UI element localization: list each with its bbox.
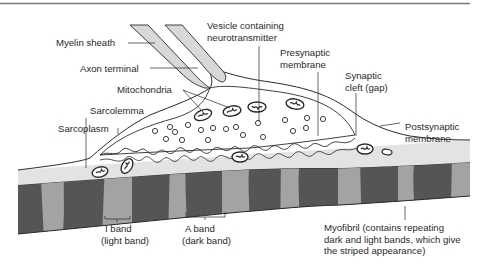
label-myelin-sheath: Myelin sheath	[56, 37, 115, 49]
label-synaptic-cleft: Synaptic cleft (gap)	[345, 70, 388, 93]
label-a-band-line2: (dark band)	[182, 235, 231, 247]
label-a-band: A band (dark band)	[182, 223, 231, 246]
label-vesicle-line1: Vesicle containing	[207, 20, 284, 32]
label-i-band-line2: (light band)	[101, 235, 149, 247]
label-myofibril: Myofibril (contains repeating dark and l…	[324, 222, 461, 257]
label-cleft-line2: cleft (gap)	[345, 82, 388, 94]
label-vesicle-line2: neurotransmitter	[207, 32, 284, 44]
label-i-band-line1: I band	[101, 223, 149, 235]
label-myofibril-line3: the striped appearance)	[324, 245, 461, 257]
label-postsynaptic-line1: Postsynaptic	[405, 121, 459, 133]
label-sarcolemma: Sarcolemma	[90, 105, 144, 117]
label-myofibril-line1: Myofibril (contains repeating	[324, 222, 461, 234]
label-mitochondria: Mitochondria	[117, 84, 172, 96]
label-postsynaptic-line2: membrane	[405, 133, 459, 145]
neuromuscular-junction-diagram: Myelin sheath Axon terminal Mitochondria…	[0, 0, 484, 270]
label-sarcoplasm: Sarcoplasm	[58, 123, 109, 135]
label-vesicle: Vesicle containing neurotransmitter	[207, 20, 284, 43]
label-a-band-line1: A band	[182, 223, 231, 235]
label-i-band: I band (light band)	[101, 223, 149, 246]
label-presynaptic-membrane: Presynaptic membrane	[280, 47, 330, 70]
label-postsynaptic-membrane: Postsynaptic membrane	[405, 121, 459, 144]
label-cleft-line1: Synaptic	[345, 70, 388, 82]
label-axon-terminal: Axon terminal	[80, 63, 139, 75]
label-presynaptic-line2: membrane	[280, 59, 330, 71]
label-presynaptic-line1: Presynaptic	[280, 47, 330, 59]
label-myofibril-line2: dark and light bands, which give	[324, 234, 461, 246]
